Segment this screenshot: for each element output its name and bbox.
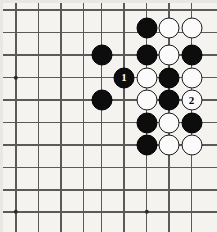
- grid-line-vertical-5: [123, 0, 125, 232]
- star-point-1: [14, 210, 18, 214]
- board-top-edge: [0, 0, 217, 3]
- move-number-label: 2: [189, 94, 195, 105]
- stone-black-18[interactable]: [136, 135, 157, 156]
- stone-white-19[interactable]: [159, 135, 180, 156]
- stone-black-0[interactable]: [136, 18, 157, 39]
- go-board-diagram: 12: [0, 0, 217, 232]
- stone-white-8[interactable]: [136, 67, 157, 88]
- grid-line-vertical-2: [60, 0, 62, 232]
- board-left-edge: [0, 0, 3, 232]
- stone-black-6[interactable]: [181, 45, 202, 66]
- stone-white-1[interactable]: [159, 18, 180, 39]
- star-point-2: [144, 210, 148, 214]
- grid-line-horizontal-8: [0, 189, 217, 191]
- grid-line-horizontal-9: [0, 211, 217, 213]
- move-number-label: 1: [121, 72, 127, 83]
- stone-black-4[interactable]: [136, 45, 157, 66]
- grid-line-vertical-3: [83, 0, 85, 232]
- stone-black-13[interactable]: [159, 90, 180, 111]
- stone-black-15[interactable]: [136, 112, 157, 133]
- grid-line-vertical-0: [15, 0, 17, 232]
- stone-white-12[interactable]: [136, 90, 157, 111]
- stone-black-3[interactable]: [91, 45, 112, 66]
- grid-line-vertical-4: [101, 0, 103, 232]
- stone-black-9[interactable]: [159, 67, 180, 88]
- star-point-0: [14, 75, 18, 79]
- stone-white-16[interactable]: [159, 112, 180, 133]
- grid-line-horizontal-7: [0, 167, 217, 169]
- stone-black-17[interactable]: [181, 112, 202, 133]
- stone-black-11[interactable]: [91, 90, 112, 111]
- stone-white-2[interactable]: [181, 18, 202, 39]
- grid-line-vertical-1: [38, 0, 40, 232]
- stone-white-20[interactable]: [181, 135, 202, 156]
- move-stone-2-white[interactable]: 2: [181, 90, 202, 111]
- grid-line-horizontal-0: [0, 9, 217, 11]
- goban-grid[interactable]: 12: [0, 0, 217, 232]
- move-stone-1-black[interactable]: 1: [114, 67, 135, 88]
- stone-white-5[interactable]: [159, 45, 180, 66]
- stone-white-10[interactable]: [181, 67, 202, 88]
